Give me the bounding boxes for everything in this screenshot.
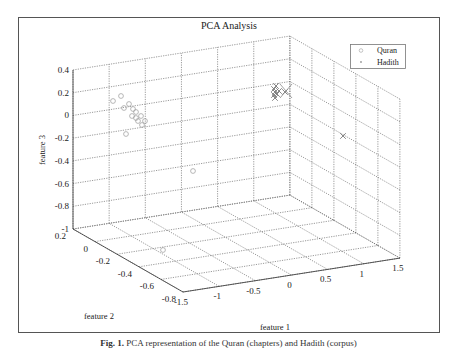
legend: Quran Hadith — [351, 45, 406, 69]
y-tick-label: -0.4 — [118, 269, 133, 279]
x-tick-label: 0.5 — [320, 274, 332, 284]
x-tick-label: -1 — [213, 291, 221, 301]
x-tick-label: 0 — [287, 280, 292, 290]
x-tick-label: 1.5 — [392, 263, 404, 273]
y-tick-label: -0.6 — [140, 281, 155, 291]
z-tick-label: -0.4 — [55, 156, 70, 166]
y-tick-label: 0 — [84, 244, 89, 254]
caption-text: PCA representation of the Quran (chapter… — [126, 338, 356, 348]
y-tick-label: -0.2 — [96, 256, 110, 266]
z-tick-label: -0.6 — [55, 179, 70, 189]
x-tick-label: -1.5 — [174, 297, 189, 307]
chart-title: PCA Analysis — [201, 20, 257, 31]
x-tick-label: -0.5 — [246, 286, 261, 296]
figure-caption: Fig. 1. PCA representation of the Quran … — [0, 338, 457, 348]
x-axis-label: feature 1 — [260, 322, 290, 332]
z-axis-label: feature 3 — [37, 135, 47, 165]
y-axis-label: feature 2 — [84, 311, 114, 321]
pca-3d-scatter-figure: 0.40.20-0.2-0.4-0.6-0.8-10.20-0.2-0.4-0.… — [0, 0, 457, 353]
z-tick-label: 0.2 — [58, 88, 69, 98]
z-tick-label: -0.2 — [55, 133, 69, 143]
x-tick-label: 1 — [360, 269, 365, 279]
z-tick-label: -0.8 — [55, 201, 70, 211]
legend-hadith-label: Hadith — [377, 58, 399, 67]
caption-label: Fig. 1. — [100, 338, 124, 348]
z-tick-label: 0 — [65, 110, 70, 120]
legend-hadith-marker-icon — [360, 61, 362, 63]
z-tick-label: 0.4 — [58, 65, 70, 75]
y-tick-label: 0.2 — [55, 231, 66, 241]
legend-quran-label: Quran — [377, 46, 397, 55]
